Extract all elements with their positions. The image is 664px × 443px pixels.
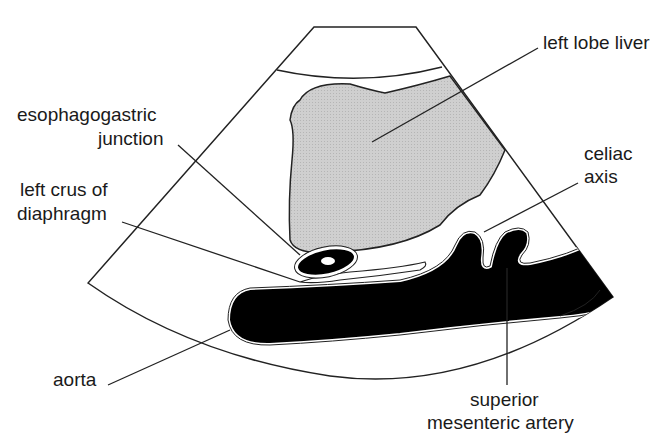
label-left-crus-2: diaphragm <box>17 203 107 224</box>
label-celiac-1: celiac <box>584 143 633 164</box>
label-aorta: aorta <box>53 369 97 390</box>
label-left-lobe-liver: left lobe liver <box>543 32 650 53</box>
label-sma-2: mesenteric artery <box>427 412 574 433</box>
leader-aorta <box>108 330 230 385</box>
label-sma-1: superior <box>470 389 539 410</box>
label-celiac-2: axis <box>584 166 618 187</box>
label-left-crus-1: left crus of <box>20 179 108 200</box>
label-esophagogastric-1: esophagogastric <box>17 104 156 125</box>
label-esophagogastric-2: junction <box>97 128 164 149</box>
ultrasound-diagram: left lobe liver esophagogastric junction… <box>0 0 664 443</box>
